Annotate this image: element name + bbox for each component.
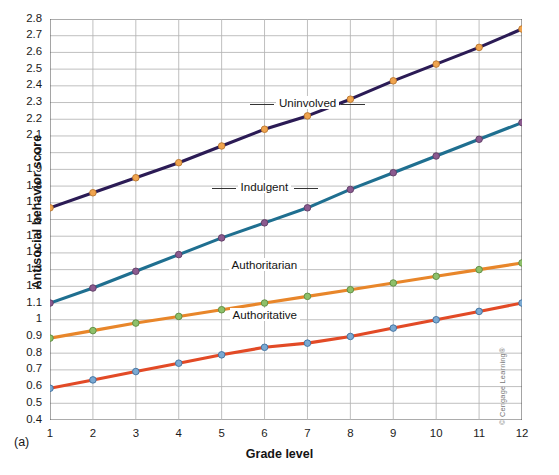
data-point-marker (261, 300, 268, 307)
data-point-marker (304, 205, 311, 212)
x-axis-tick-label: 2 (78, 427, 108, 439)
data-point-marker (304, 293, 311, 300)
data-point-marker (90, 377, 97, 384)
data-point-marker (390, 325, 397, 332)
y-axis-tick-label: 1.1 (2, 296, 42, 308)
x-axis-tick-label: 10 (421, 427, 451, 439)
data-point-marker (390, 78, 397, 85)
x-axis-tick-label: 4 (164, 427, 194, 439)
data-point-marker (133, 268, 140, 275)
x-axis-tick-label: 11 (464, 427, 494, 439)
data-point-marker (347, 96, 354, 103)
leader-line (341, 104, 365, 105)
y-axis-tick-label: 1 (2, 312, 42, 324)
y-axis-tick-label: 0.7 (2, 362, 42, 374)
data-point-marker (347, 186, 354, 193)
leader-line (294, 188, 318, 189)
panel-tag: (a) (14, 435, 29, 449)
y-axis-tick-label: 2.4 (2, 78, 42, 90)
data-point-marker (304, 340, 311, 347)
data-point-marker (433, 153, 440, 160)
y-axis-tick-label: 2.8 (2, 12, 42, 24)
y-axis-tick-label: 1.7 (2, 195, 42, 207)
x-axis-title: Grade level (0, 447, 559, 461)
data-point-marker (175, 360, 182, 367)
y-axis-tick-label: 1.3 (2, 262, 42, 274)
y-axis-tick-label: 2.7 (2, 28, 42, 40)
leader-line (212, 188, 236, 189)
data-point-marker (50, 205, 53, 212)
data-point-marker (519, 119, 522, 126)
chart-figure: Antisocial behavior score Grade level (a… (0, 0, 559, 475)
data-point-marker (476, 266, 483, 273)
data-point-marker (433, 273, 440, 280)
y-axis-tick-label: 1.5 (2, 229, 42, 241)
series-label-uninvolved: Uninvolved (276, 96, 339, 109)
series-line-indulgent (50, 123, 522, 303)
data-point-marker (433, 61, 440, 68)
x-axis-tick-label: 5 (207, 427, 237, 439)
data-point-marker (218, 352, 225, 359)
y-axis-tick-label: 2.1 (2, 128, 42, 140)
y-axis-tick-label: 1.2 (2, 279, 42, 291)
data-point-marker (519, 300, 522, 307)
x-axis-tick-label: 3 (121, 427, 151, 439)
data-point-marker (347, 286, 354, 293)
y-axis-tick-label: 1.6 (2, 212, 42, 224)
x-axis-tick-label: 7 (292, 427, 322, 439)
data-point-marker (50, 335, 53, 342)
x-axis-tick-label: 12 (507, 427, 537, 439)
series-label-authoritative: Authoritative (230, 308, 300, 321)
data-point-marker (90, 327, 97, 334)
data-point-marker (133, 368, 140, 375)
y-axis-tick-label: 1.8 (2, 179, 42, 191)
y-axis-tick-label: 0.6 (2, 379, 42, 391)
y-axis-tick-label: 2 (2, 145, 42, 157)
series-label-indulgent: Indulgent (238, 180, 292, 193)
data-point-marker (261, 344, 268, 351)
x-axis-tick-label: 1 (35, 427, 65, 439)
series-label-authoritarian: Authoritarian (229, 258, 301, 271)
data-point-marker (476, 308, 483, 315)
data-point-marker (218, 306, 225, 313)
data-point-marker (304, 113, 311, 120)
data-point-marker (90, 285, 97, 292)
y-axis-tick-label: 0.9 (2, 329, 42, 341)
y-axis-tick-label: 0.8 (2, 346, 42, 358)
x-axis-tick-label: 6 (250, 427, 280, 439)
y-axis-tick-label: 1.4 (2, 245, 42, 257)
plot-svg (50, 19, 522, 420)
x-axis-tick-label: 8 (335, 427, 365, 439)
data-point-marker (347, 333, 354, 340)
data-point-marker (175, 251, 182, 258)
y-axis-tick-label: 2.5 (2, 62, 42, 74)
y-axis-tick-label: 0.4 (2, 413, 42, 425)
x-axis-tick-label: 9 (378, 427, 408, 439)
data-point-marker (90, 189, 97, 196)
y-axis-tick-label: 0.5 (2, 396, 42, 408)
data-point-marker (133, 174, 140, 181)
data-point-marker (261, 126, 268, 133)
data-point-marker (519, 26, 522, 33)
data-point-marker (218, 235, 225, 242)
series-line-authoritarian (50, 263, 522, 338)
y-axis-tick-label: 2.2 (2, 112, 42, 124)
y-axis-tick-label: 1.9 (2, 162, 42, 174)
data-point-marker (390, 169, 397, 176)
y-axis-tick-label: 2.6 (2, 45, 42, 57)
data-point-marker (433, 316, 440, 323)
data-point-marker (218, 143, 225, 150)
data-point-marker (175, 159, 182, 166)
data-point-marker (390, 280, 397, 287)
data-point-marker (476, 44, 483, 51)
data-point-marker (175, 313, 182, 320)
leader-line (250, 104, 274, 105)
data-point-marker (50, 385, 53, 392)
data-point-marker (261, 220, 268, 227)
plot-area (50, 19, 522, 420)
data-point-marker (133, 320, 140, 327)
data-point-marker (476, 136, 483, 143)
data-point-marker (519, 260, 522, 267)
y-axis-tick-label: 2.3 (2, 95, 42, 107)
data-point-marker (50, 300, 53, 307)
